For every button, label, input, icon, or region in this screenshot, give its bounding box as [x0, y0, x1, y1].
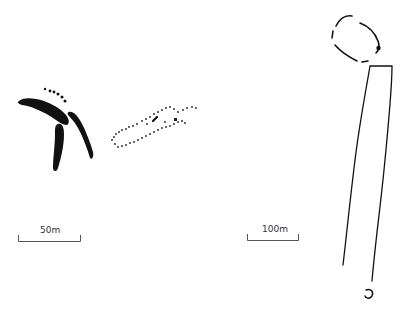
long-rectangular-enclosure [343, 66, 392, 281]
scale-bar-100m [248, 234, 299, 241]
ring-feature [365, 289, 373, 298]
scale-label-100m: 100m [262, 224, 288, 234]
enclosure-dot [376, 46, 380, 50]
scale-label-50m: 50m [40, 225, 60, 235]
site-plan-drawing [0, 0, 407, 312]
ditch-segment-right [68, 112, 94, 159]
dotted-oval-enclosure [111, 106, 197, 148]
dotted-ditch-arc [44, 88, 67, 103]
left-ditch-group [18, 98, 93, 171]
ditch-segment-vertical [53, 124, 64, 171]
scale-bar-50m [19, 235, 81, 242]
rounded-enclosure [332, 16, 379, 62]
ditch-segment-upper [18, 98, 69, 125]
